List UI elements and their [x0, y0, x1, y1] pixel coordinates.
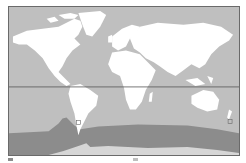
legend-item-ocean — [133, 158, 141, 163]
map-canvas — [9, 7, 239, 155]
legend-swatch-band — [8, 158, 13, 161]
world-map — [8, 6, 240, 156]
legend-item-band — [8, 158, 16, 163]
legend-swatch-ocean — [133, 158, 138, 161]
legend — [8, 158, 240, 163]
